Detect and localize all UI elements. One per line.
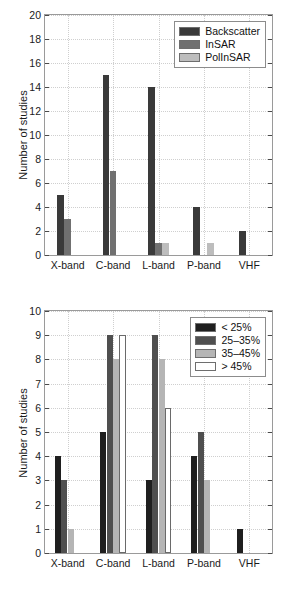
y-tick-mark-right (268, 207, 272, 208)
y-tick-mark-right (268, 505, 272, 506)
y-tick-mark-right (268, 231, 272, 232)
legend-swatch-icon (195, 323, 216, 332)
y-tick-mark-right (268, 456, 272, 457)
legend-label: > 45% (221, 361, 251, 372)
y-tick-mark (45, 456, 49, 457)
y-tick-mark (45, 135, 49, 136)
chart-bottom-bar-chart: Number of studies 012345678910X-bandC-ba… (0, 298, 290, 596)
y-tick-label: 0 (35, 548, 41, 559)
bar-l-band-backscatter (148, 87, 155, 255)
chart-top-bar-chart: Number of studies 02468101214161820X-ban… (0, 0, 290, 298)
y-tick-mark-right (268, 63, 272, 64)
bar-c-band-3545 (113, 359, 119, 553)
legend-label: 35–45% (221, 348, 260, 359)
x-gridline (159, 15, 160, 255)
bar-x-band-2535 (61, 480, 67, 553)
y-tick-mark (45, 311, 49, 312)
y-tick-label: 0 (35, 250, 41, 261)
y-tick-label: 9 (35, 330, 41, 341)
y-tick-mark-right (268, 159, 272, 160)
y-tick-mark-right (268, 335, 272, 336)
y-tick-label: 6 (35, 178, 41, 189)
y-tick-mark-right (268, 480, 272, 481)
legend-item[interactable]: Backscatter (179, 25, 260, 38)
x-tick-label: P-band (187, 260, 221, 271)
legend-label: InSAR (205, 39, 235, 50)
bar-vhf-backscatter (239, 231, 246, 255)
bar-c-band-45 (119, 335, 125, 553)
x-tick-label: VHF (239, 558, 260, 569)
y-tick-mark-right (268, 183, 272, 184)
y-tick-mark (45, 553, 49, 554)
legend-swatch-icon (179, 27, 200, 36)
y-tick-label: 4 (35, 202, 41, 213)
plot-area-top: 02468101214161820X-bandC-bandL-bandP-ban… (44, 14, 273, 256)
y-tick-label: 16 (29, 58, 41, 69)
y-tick-mark (45, 505, 49, 506)
y-tick-mark-right (268, 87, 272, 88)
x-tick-label: C-band (96, 558, 130, 569)
bar-l-band-25 (146, 480, 152, 553)
y-tick-mark (45, 480, 49, 481)
bar-p-band-backscatter (193, 207, 200, 255)
y-tick-mark-right (268, 39, 272, 40)
y-tick-mark (45, 39, 49, 40)
y-tick-mark-right (268, 529, 272, 530)
y-tick-label: 10 (29, 306, 41, 317)
y-tick-mark (45, 183, 49, 184)
y-tick-mark-right (268, 111, 272, 112)
legend-item[interactable]: < 25% (195, 321, 260, 334)
y-tick-mark (45, 231, 49, 232)
bar-l-band-3545 (159, 359, 165, 553)
y-tick-mark (45, 529, 49, 530)
y-tick-label: 20 (29, 10, 41, 21)
bar-x-band-backscatter (57, 195, 64, 255)
y-axis-label-wrap-top: Number of studies (0, 14, 26, 256)
legend-swatch-icon (179, 53, 200, 62)
y-tick-mark-right (268, 553, 272, 554)
legend-item[interactable]: > 45% (195, 360, 260, 373)
legend-item[interactable]: 35–45% (195, 347, 260, 360)
y-tick-mark-right (268, 135, 272, 136)
y-tick-label: 10 (29, 130, 41, 141)
y-axis-label-bottom: Number of studies (17, 388, 29, 477)
legend-item[interactable]: 25–35% (195, 334, 260, 347)
y-tick-label: 8 (35, 354, 41, 365)
y-tick-mark (45, 384, 49, 385)
legend-swatch-icon (195, 362, 216, 371)
y-tick-mark (45, 15, 49, 16)
y-tick-label: 3 (35, 475, 41, 486)
bar-c-band-2535 (107, 335, 113, 553)
legend-swatch-icon (195, 349, 216, 358)
legend-item[interactable]: PolInSAR (179, 51, 260, 64)
bar-x-band-25 (55, 456, 61, 553)
x-tick-label: VHF (239, 260, 260, 271)
bar-c-band-backscatter (103, 75, 110, 255)
y-tick-label: 6 (35, 403, 41, 414)
x-tick-label: C-band (96, 260, 130, 271)
y-tick-mark-right (268, 255, 272, 256)
legend-item[interactable]: InSAR (179, 38, 260, 51)
bar-x-band-insar (64, 219, 71, 255)
legend-label: PolInSAR (205, 52, 251, 63)
bar-c-band-25 (100, 432, 106, 553)
x-tick-label: P-band (187, 558, 221, 569)
y-tick-mark-right (268, 311, 272, 312)
bar-l-band-polinsar (162, 243, 169, 255)
y-tick-mark (45, 63, 49, 64)
plot-area-bottom: 012345678910X-bandC-bandL-bandP-bandVHF<… (44, 310, 273, 554)
y-tick-label: 8 (35, 154, 41, 165)
y-tick-label: 18 (29, 34, 41, 45)
y-tick-label: 5 (35, 427, 41, 438)
legend-bottom: < 25%25–35%35–45%> 45% (190, 317, 266, 377)
x-tick-label: X-band (51, 558, 85, 569)
y-tick-label: 4 (35, 451, 41, 462)
x-tick-label: L-band (142, 260, 175, 271)
y-axis-label-top: Number of studies (17, 90, 29, 179)
y-tick-mark-right (268, 408, 272, 409)
bar-c-band-insar (110, 171, 117, 255)
y-tick-label: 12 (29, 106, 41, 117)
y-tick-mark (45, 408, 49, 409)
legend-label: < 25% (221, 322, 251, 333)
y-tick-mark (45, 207, 49, 208)
